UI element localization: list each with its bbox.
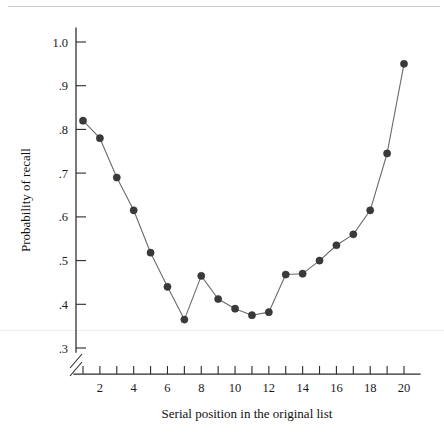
data-point-position-20 [400,60,407,67]
data-point-position-16 [333,242,340,249]
y-tick-label-0.5: .5 [59,254,68,268]
x-tick-label-8: 8 [198,381,204,395]
x-tick-label-10: 10 [229,381,242,395]
data-point-position-9 [215,295,222,302]
data-point-position-7 [181,316,188,323]
data-point-position-2 [96,135,103,142]
y-tick-label-0.4: .4 [59,298,69,312]
data-point-position-6 [164,283,171,290]
y-axis-break-slash-upper [70,354,82,368]
x-axis-tick-labels: 2468101214161820 [97,381,410,395]
y-tick-label-0.6: .6 [59,210,68,224]
data-point-position-13 [282,271,289,278]
data-point-position-8 [198,272,205,279]
x-axis-title: Serial position in the original list [162,406,333,421]
y-tick-label-0.8: .8 [59,123,68,137]
data-point-position-12 [265,309,272,316]
data-point-position-14 [299,270,306,277]
data-point-position-11 [248,312,255,319]
data-point-position-5 [147,249,154,256]
recall-curve-line [83,64,404,320]
data-point-position-1 [79,117,86,124]
data-point-position-17 [350,231,357,238]
x-tick-label-4: 4 [131,381,138,395]
x-tick-label-14: 14 [296,381,309,395]
x-axis-ticks [83,366,404,374]
y-tick-label-0.7: .7 [59,167,68,181]
data-point-position-10 [231,305,238,312]
x-tick-label-20: 20 [398,381,411,395]
data-point-position-18 [367,207,374,214]
x-tick-label-2: 2 [97,381,103,395]
x-tick-label-6: 6 [164,381,170,395]
data-point-position-15 [316,257,323,264]
y-axis-title: Probability of recall [18,148,33,252]
data-point-position-19 [384,150,391,157]
x-tick-label-18: 18 [364,381,377,395]
data-point-position-3 [113,174,120,181]
data-point-position-4 [130,207,137,214]
y-axis-tick-labels: 1.0 .9 .8 .7 .6 .5 .4 .3 [52,36,68,356]
serial-position-chart: 1.0 .9 .8 .7 .6 .5 .4 .3 246810121416182… [0,0,444,446]
recall-curve-points [79,60,407,323]
x-tick-label-12: 12 [263,381,276,395]
y-tick-label-1.0: 1.0 [52,36,68,50]
serial-position-figure: 1.0 .9 .8 .7 .6 .5 .4 .3 246810121416182… [0,0,444,446]
y-axis-ticks [76,42,86,348]
x-tick-label-16: 16 [330,381,343,395]
y-tick-label-0.9: .9 [59,79,68,93]
y-tick-label-0.3: .3 [59,342,68,356]
